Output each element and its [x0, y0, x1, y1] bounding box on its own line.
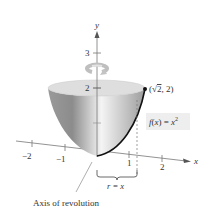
- y-tick-label-3: 3: [85, 48, 90, 58]
- radius-label: r = x: [107, 181, 124, 191]
- axis-of-revolution-caption: Axis of revolution: [33, 198, 99, 208]
- radius-brace: [97, 170, 137, 180]
- paraboloid-surface: [48, 80, 145, 156]
- function-label: f(x) = x2: [149, 116, 178, 127]
- point-label: (√2, 2): [149, 84, 173, 94]
- x-axis-label: x: [193, 156, 198, 166]
- x-axis-arrow-icon: [183, 159, 191, 164]
- axis-pointer-line: [76, 162, 92, 192]
- y-axis-arrow-icon: [95, 31, 100, 38]
- x-tick-label-2: 2: [160, 162, 165, 172]
- point-sqrt2-2: [143, 87, 147, 91]
- x-tick-label-neg1: −1: [56, 154, 66, 164]
- y-tick-label-2: 2: [85, 83, 90, 93]
- x-tick-label-neg2: −2: [22, 151, 32, 161]
- solid-of-revolution-figure: y x 3 2 −2 −1 1 2 (√2, 2) f(x) = x2 r = …: [0, 0, 203, 219]
- x-tick-label-1: 1: [127, 158, 132, 168]
- y-axis-label: y: [94, 20, 99, 30]
